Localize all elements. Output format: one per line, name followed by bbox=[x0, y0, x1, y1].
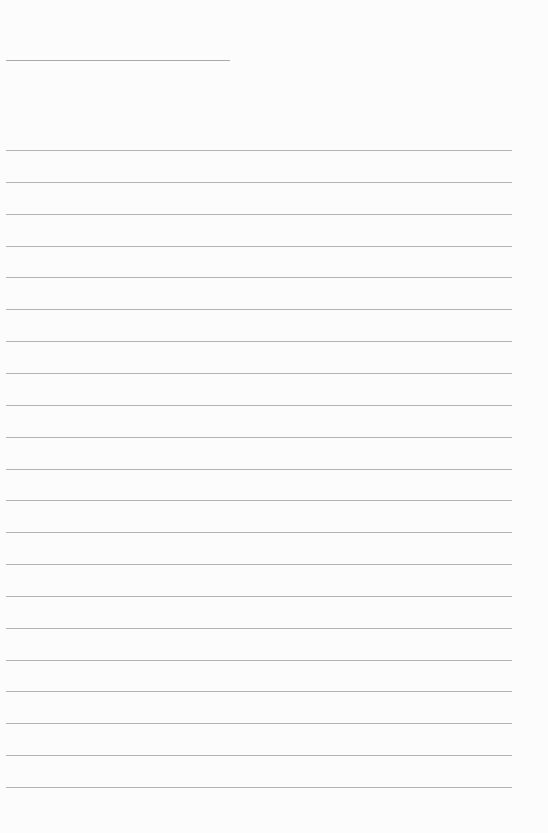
ruled-line bbox=[6, 405, 512, 406]
ruled-line bbox=[6, 596, 512, 597]
ruled-line bbox=[6, 532, 512, 533]
ruled-line bbox=[6, 723, 512, 724]
ruled-line bbox=[6, 277, 512, 278]
ruled-line bbox=[6, 564, 512, 565]
ruled-line bbox=[6, 246, 512, 247]
lined-paper-page bbox=[0, 0, 548, 833]
header-name-line bbox=[6, 60, 230, 61]
ruled-line bbox=[6, 437, 512, 438]
ruled-line bbox=[6, 373, 512, 374]
ruled-line bbox=[6, 341, 512, 342]
ruled-line bbox=[6, 469, 512, 470]
ruled-line bbox=[6, 150, 512, 151]
ruled-line bbox=[6, 309, 512, 310]
ruled-line bbox=[6, 182, 512, 183]
ruled-line bbox=[6, 500, 512, 501]
ruled-line bbox=[6, 214, 512, 215]
ruled-line bbox=[6, 755, 512, 756]
ruled-line bbox=[6, 628, 512, 629]
ruled-line bbox=[6, 787, 512, 788]
ruled-line bbox=[6, 691, 512, 692]
ruled-line bbox=[6, 660, 512, 661]
